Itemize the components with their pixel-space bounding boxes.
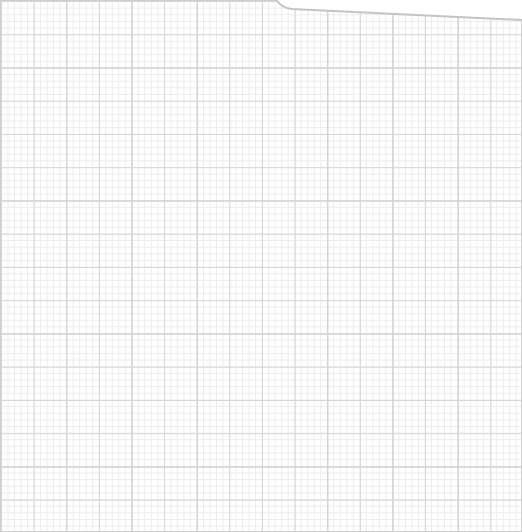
torn-edge [0,0,522,532]
